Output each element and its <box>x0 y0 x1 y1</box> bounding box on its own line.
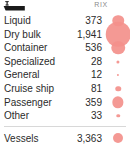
total-row[interactable]: Vessels 3,363 <box>0 131 130 146</box>
row-bubble-cell <box>104 28 130 42</box>
total-label: Vessels <box>4 131 38 146</box>
row-bubble-cell <box>104 68 130 82</box>
row-label: Dry bulk <box>4 28 41 42</box>
row-bubble-cell <box>104 55 130 69</box>
bubble-marker <box>116 60 119 63</box>
bubble-marker <box>116 114 120 118</box>
table-row[interactable]: General 12 <box>0 68 130 82</box>
table-row[interactable]: Other 33 <box>0 109 130 123</box>
row-value: 28 <box>40 55 102 69</box>
row-value: 1,941 <box>40 28 102 42</box>
table-row[interactable]: Dry bulk 1,941 <box>0 28 130 42</box>
total-bubble-cell <box>104 131 130 146</box>
table-row[interactable]: Container 536 <box>0 41 130 55</box>
row-value: 373 <box>40 14 102 28</box>
row-bubble-cell <box>104 96 130 110</box>
bubble-marker <box>111 41 125 55</box>
row-label: Other <box>4 109 29 123</box>
vessel-counts-widget: RIX Liquid 373 Dry bulk 1,941 Container … <box>0 0 130 150</box>
row-label: General <box>4 68 40 82</box>
row-value: 81 <box>40 82 102 96</box>
cargo-ship-icon <box>3 1 27 12</box>
widget-header: RIX <box>0 0 130 14</box>
column-header-rix: RIX <box>94 1 108 8</box>
table-row[interactable]: Passenger 359 <box>0 96 130 110</box>
row-bubble-cell <box>104 82 130 96</box>
vessel-type-rows: Liquid 373 Dry bulk 1,941 Container 536 … <box>0 14 130 123</box>
bubble-marker <box>113 133 123 143</box>
row-label: Liquid <box>4 14 31 28</box>
total-value: 3,363 <box>40 131 102 146</box>
bubble-marker <box>117 74 119 76</box>
table-row[interactable]: Specialized 28 <box>0 55 130 69</box>
row-value: 359 <box>40 96 102 110</box>
total-divider <box>4 126 126 127</box>
row-bubble-cell <box>104 41 130 55</box>
row-bubble-cell <box>104 109 130 123</box>
row-value: 536 <box>40 41 102 55</box>
bubble-marker <box>112 97 123 108</box>
bubble-marker <box>115 86 121 92</box>
row-value: 12 <box>40 68 102 82</box>
row-value: 33 <box>40 109 102 123</box>
table-row[interactable]: Cruise ship 81 <box>0 82 130 96</box>
